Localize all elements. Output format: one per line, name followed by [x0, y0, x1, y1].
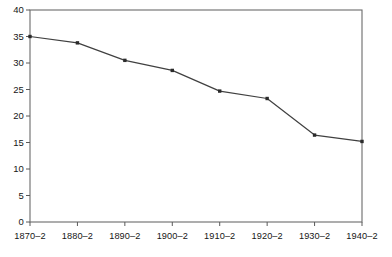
frame-rect	[30, 10, 362, 222]
data-point-marker	[28, 35, 31, 38]
x-tick-label: 1890–2	[98, 231, 152, 241]
data-point-marker	[313, 133, 316, 136]
y-tick-label: 25	[2, 85, 24, 95]
data-point-marker	[76, 41, 79, 44]
data-point-marker	[171, 69, 174, 72]
data-series-markers	[28, 35, 363, 143]
plot-area	[0, 0, 392, 257]
y-tick-label: 0	[2, 217, 24, 227]
y-tick-label: 40	[2, 5, 24, 15]
y-tick-label: 30	[2, 58, 24, 68]
y-tick-label: 5	[2, 191, 24, 201]
line-chart: 0510152025303540 1870–21880–21890–21900–…	[0, 0, 392, 257]
axis-frame	[30, 10, 362, 222]
x-tick-label: 1910–2	[193, 231, 247, 241]
data-point-marker	[265, 97, 268, 100]
data-point-marker	[218, 89, 221, 92]
x-tick-label: 1870–2	[3, 231, 57, 241]
y-tick-label: 15	[2, 138, 24, 148]
y-tick-label: 10	[2, 164, 24, 174]
x-tick-label: 1920–2	[240, 231, 294, 241]
y-tick-label: 20	[2, 111, 24, 121]
x-tick-label: 1900–2	[145, 231, 199, 241]
y-tick-label: 35	[2, 32, 24, 42]
data-point-marker	[360, 140, 363, 143]
data-point-marker	[123, 59, 126, 62]
x-axis-ticks	[30, 222, 362, 226]
x-tick-label: 1930–2	[288, 231, 342, 241]
x-tick-label: 1880–2	[50, 231, 104, 241]
data-series-line	[30, 37, 362, 142]
y-axis-ticks	[26, 10, 30, 222]
x-tick-label: 1940–2	[335, 231, 389, 241]
